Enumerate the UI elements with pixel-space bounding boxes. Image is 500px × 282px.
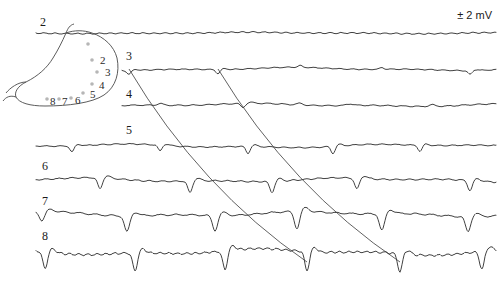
trace-channel-6 xyxy=(36,176,496,193)
electrode-label-5: 5 xyxy=(90,88,96,100)
trace-canvas: 23456782345678 xyxy=(0,0,500,282)
electrode-label-2: 2 xyxy=(100,54,106,66)
channel-label-2: 2 xyxy=(40,15,46,29)
channel-label-3: 3 xyxy=(126,49,132,63)
electrode-dot-extra-7 xyxy=(86,42,90,46)
trace-channel-3 xyxy=(122,65,496,74)
propagation-line-1 xyxy=(129,69,307,262)
channel-label-4: 4 xyxy=(126,87,132,101)
trace-channel-2 xyxy=(36,32,496,35)
trace-channel-7 xyxy=(36,207,496,231)
electrode-dot-6 xyxy=(69,96,73,100)
pylorus-line xyxy=(3,96,16,101)
electrode-dot-4 xyxy=(90,82,94,86)
electrode-dot-3 xyxy=(95,70,99,74)
electrode-dot-8 xyxy=(45,97,49,101)
electrode-dot-2 xyxy=(90,58,94,62)
trace-channel-8 xyxy=(36,245,496,272)
electrode-label-3: 3 xyxy=(105,66,111,78)
electrode-dot-7 xyxy=(57,97,61,101)
channel-label-7: 7 xyxy=(42,194,48,208)
channel-label-8: 8 xyxy=(42,229,48,243)
electrode-label-7: 7 xyxy=(62,95,68,107)
electrode-label-6: 6 xyxy=(75,94,81,106)
trace-channel-5 xyxy=(36,143,496,153)
scale-bar-label: ± 2 mV xyxy=(457,9,492,21)
channel-label-5: 5 xyxy=(126,123,132,137)
electrode-label-8: 8 xyxy=(50,95,56,107)
channel-label-6: 6 xyxy=(42,159,48,173)
electrode-label-4: 4 xyxy=(99,79,105,91)
trace-channel-4 xyxy=(122,102,496,108)
electrode-dot-5 xyxy=(81,91,85,95)
propagation-line-2 xyxy=(218,69,400,262)
electrophysiology-figure: 23456782345678 xyxy=(0,0,500,282)
